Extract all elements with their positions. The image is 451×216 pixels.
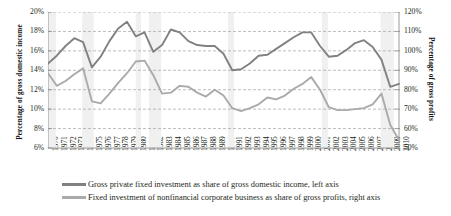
legend-label: Fixed investment of nonfinancial corpora… xyxy=(88,193,380,202)
y-axis-right-tick: 60% xyxy=(404,124,434,133)
y-axis-right-tick: 90% xyxy=(404,65,434,74)
chart-figure: Percentage of gross domestic income Perc… xyxy=(0,0,451,216)
y-axis-left-tick: 8% xyxy=(18,124,44,133)
legend-label: Gross private fixed investment as share … xyxy=(88,180,339,189)
y-axis-left-tick: 20% xyxy=(18,7,44,16)
y-axis-right-tick: 110% xyxy=(404,26,434,35)
recession-band xyxy=(322,12,328,148)
recession-band xyxy=(136,12,141,148)
y-axis-left-tick: 18% xyxy=(18,26,44,35)
recession-band xyxy=(82,12,93,148)
y-axis-left-tick: 10% xyxy=(18,104,44,113)
y-axis-right-tick: 70% xyxy=(404,104,434,113)
y-axis-left-tick: 14% xyxy=(18,65,44,74)
y-axis-right-tick: 80% xyxy=(404,85,434,94)
legend-item: Gross private fixed investment as share … xyxy=(62,180,339,189)
y-axis-left-tick: 6% xyxy=(18,143,44,152)
legend-swatch-icon xyxy=(62,196,86,199)
legend-item: Fixed investment of nonfinancial corpora… xyxy=(62,193,380,202)
y-axis-left-tick: 12% xyxy=(18,85,44,94)
y-axis-right-tick: 100% xyxy=(404,46,434,55)
x-axis-tick-year: 2010 xyxy=(402,136,411,151)
recession-band xyxy=(228,12,234,148)
legend-swatch-icon xyxy=(62,183,86,186)
plot-area xyxy=(48,12,399,148)
y-axis-left-tick: 16% xyxy=(18,46,44,55)
y-axis-right-tick: 120% xyxy=(404,7,434,16)
